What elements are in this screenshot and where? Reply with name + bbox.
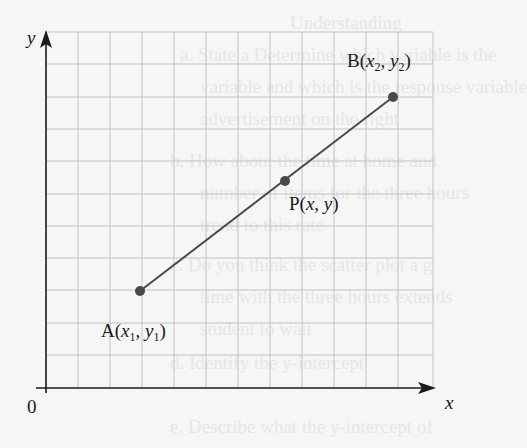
- point-a-label: A(x1, y1): [101, 320, 166, 344]
- y-axis-label: y: [25, 27, 36, 48]
- point-b-label: B(x2, y2): [347, 50, 411, 74]
- point-a: [135, 286, 145, 296]
- origin-label: 0: [27, 396, 37, 417]
- point-p-label: P(x, y): [289, 193, 339, 215]
- point-p: [280, 176, 290, 186]
- y-axis: [40, 30, 52, 393]
- x-axis: [36, 382, 436, 394]
- point-b: [388, 92, 398, 102]
- x-axis-label: x: [444, 392, 454, 413]
